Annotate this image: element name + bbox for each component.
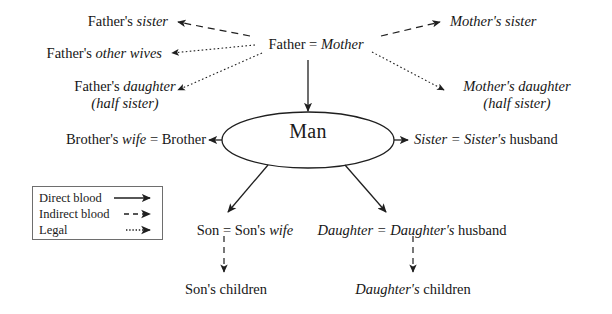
mothers-daughter-emph: Mother's daughter [463,78,570,95]
fathers-other-wives-prefix: Father's [47,45,96,61]
legend-label-direct-blood: Direct blood [39,191,102,206]
mothers-daughter-sub: (half sister) [463,95,570,112]
edge-father-mother-to-fathers-sister [178,22,250,36]
fathers-sister-emph: sister [137,13,168,29]
legend-item-legal: Legal [39,222,158,238]
sons-children-label: Son's children [185,281,267,297]
edge-father-mother-to-mothers-sister [381,22,440,36]
fathers-daughter-sub: (half sister) [74,95,175,112]
node-son-sons-wife: Son = Son's wife [197,222,294,239]
node-sister-sisters-husband: Sister = Sister's husband [414,131,558,148]
father-mother-prefix: Father = [268,36,320,52]
node-father-mother: Father = Mother [268,36,363,53]
sister-sisters-suffix: husband [506,131,558,147]
edge-father-mother-to-fathers-daughter [178,53,262,90]
edge-father-mother-to-mothers-daughter [372,52,444,90]
brothers-wife-suffix: = Brother [146,131,206,147]
fathers-sister-prefix: Father's [88,13,137,29]
node-daughter-daughters-husband: Daughter = Daughter's husband [318,222,507,239]
brothers-wife-emph: wife [122,131,146,147]
fathers-other-wives-emph: other wives [96,45,162,61]
father-mother-emph: Mother [321,36,364,52]
son-sons-wife-prefix: Son = Son's [197,222,269,238]
fathers-daughter-prefix: Father's [74,78,123,94]
brothers-wife-prefix: Brother's [66,131,122,147]
legend-label-legal: Legal [39,223,67,238]
kinship-diagram: Father's sister Father's other wives Fat… [0,0,612,314]
daughters-children-emph: Daughter's [355,281,419,297]
node-sons-children: Son's children [185,281,267,298]
son-sons-wife-emph: wife [269,222,293,238]
mothers-sister-emph: Mother's sister [450,13,536,29]
solid-arrow-icon [112,190,158,206]
node-fathers-daughter: Father's daughter (half sister) [74,78,175,111]
edge-father-mother-to-fathers-other-wives [172,45,255,53]
daughter-daughters-emph: Daughter = Daughter's [318,222,455,238]
node-mothers-daughter: Mother's daughter (half sister) [463,78,570,111]
fathers-daughter-emph: daughter [123,78,175,94]
node-mothers-sister: Mother's sister [450,13,536,30]
man-label: Man [289,120,326,142]
legend-item-indirect-blood: Indirect blood [39,206,158,222]
daughter-daughters-suffix: husband [454,222,506,238]
dotted-arrow-icon [112,222,158,238]
sister-sisters-emph: Sister = Sister's [414,131,506,147]
legend-list: Direct blood Indirect blood Legal [39,190,158,238]
node-man: Man [289,120,326,143]
daughters-children-suffix: children [420,281,471,297]
node-fathers-sister: Father's sister [88,13,168,30]
legend-box: Direct blood Indirect blood Legal [32,186,163,240]
dashed-arrow-icon [112,206,158,222]
edge-man-to-son [228,165,268,212]
legend-label-indirect-blood: Indirect blood [39,207,109,222]
node-daughters-children: Daughter's children [355,281,470,298]
node-fathers-other-wives: Father's other wives [47,45,162,62]
node-brothers-wife-brother: Brother's wife = Brother [66,131,206,148]
edge-man-to-daughter [345,165,386,212]
legend-item-direct-blood: Direct blood [39,190,158,206]
